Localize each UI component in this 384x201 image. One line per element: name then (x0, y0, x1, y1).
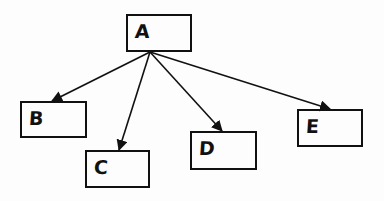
node-c: C (85, 150, 150, 188)
node-d-label: D (198, 137, 215, 159)
node-c-label: C (93, 156, 108, 178)
node-b-label: B (28, 107, 44, 129)
arrow-a-to-c (119, 52, 150, 150)
node-d: D (190, 131, 257, 170)
node-a: A (126, 14, 192, 52)
node-e: E (297, 109, 363, 147)
node-a-label: A (134, 20, 150, 42)
node-b: B (20, 101, 87, 138)
diagram-canvas: A B C D E (0, 0, 384, 201)
node-e-label: E (305, 115, 320, 137)
arrow-a-to-b (52, 52, 150, 101)
